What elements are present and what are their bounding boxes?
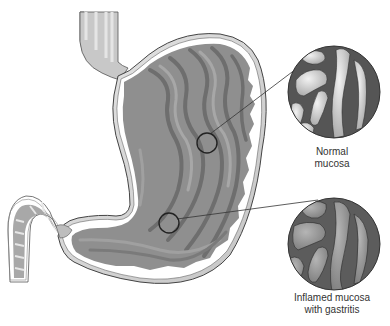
esophagus	[80, 12, 128, 80]
label-normal-line1: Normal	[292, 146, 372, 158]
label-normal-line2: mucosa	[292, 158, 372, 170]
label-inflamed-line1: Inflamed mucosa	[282, 292, 382, 304]
label-inflamed-mucosa: Inflamed mucosa with gastritis	[282, 292, 382, 316]
label-normal-mucosa: Normal mucosa	[292, 146, 372, 170]
detail-inflamed-mucosa	[288, 198, 380, 292]
label-inflamed-line2: with gastritis	[282, 304, 382, 316]
